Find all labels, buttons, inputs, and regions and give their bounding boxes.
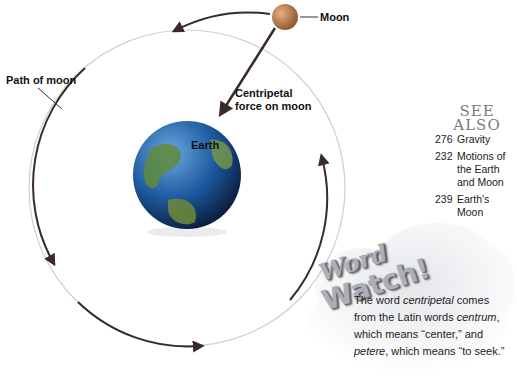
earth-icon xyxy=(133,121,241,237)
see-also-item[interactable]: 276 Gravity xyxy=(435,133,517,146)
orbit-arrow-left xyxy=(33,68,85,262)
path-of-moon-label: Path of moon xyxy=(6,74,76,86)
see-also-item[interactable]: 239 Earth's Moon xyxy=(435,193,517,219)
orbit-arrow-top xyxy=(176,12,270,30)
see-also-heading: SEE ALSO xyxy=(452,104,502,132)
see-also-item[interactable]: 232 Motions of the Earth and Moon xyxy=(435,150,517,189)
moon-label: Moon xyxy=(320,11,349,23)
earth-label: Earth xyxy=(191,139,219,151)
orbit-arrow-bottom xyxy=(78,302,200,346)
see-also-list: 276 Gravity 232 Motions of the Earth and… xyxy=(435,133,517,223)
centripetal-force-label: Centripetal force on moon xyxy=(235,87,311,113)
moon-icon xyxy=(272,4,298,30)
word-watch-text: The word centripetal comes from the Lati… xyxy=(354,292,514,360)
